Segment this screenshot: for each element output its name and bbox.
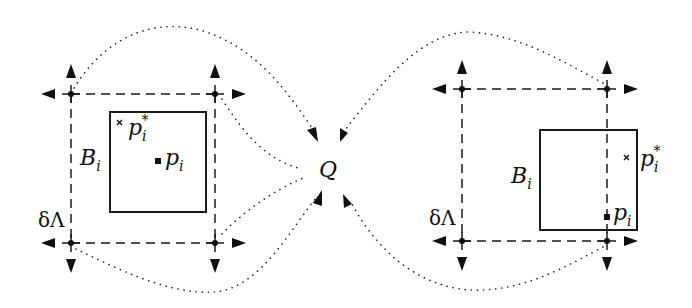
left-group: pi* pi Bi δΛ [38,64,246,273]
arrow-down-icon [210,259,220,273]
left-node-bottom-right [206,234,246,273]
right-node-bottom-right [598,232,638,271]
arrow-right-icon [232,238,246,248]
left-node-top-right [206,64,246,103]
arrow-up-icon [457,60,467,74]
left-point-label: pi [165,145,184,174]
arrow-up-icon [210,64,220,78]
arrow-down-icon [602,257,612,271]
arrow-right-icon [624,236,638,246]
right-box-label: Bi [510,163,532,192]
arrow-into-q-icon [313,190,322,206]
arrow-right-icon [624,84,638,94]
center-label-q: Q [319,157,337,182]
right-dashed-boundary [462,89,607,241]
right-star-point-label: pi* [640,143,661,175]
left-star-point [117,120,122,125]
arrow-into-q-icon [343,194,352,208]
arrow-into-q-icon [307,127,318,142]
arrow-down-icon [457,257,467,271]
left-node-top-left [41,64,80,103]
right-node-top-left [432,60,471,98]
right-point-marker [604,214,610,220]
arrow-down-icon [66,259,76,273]
right-star-point [624,155,629,160]
left-point-marker [155,158,161,164]
left-box-label: Bi [79,145,101,174]
right-group: pi* pi Bi δΛ [429,60,661,271]
dotted-connectors [74,27,603,293]
arrow-left-icon [41,238,55,248]
arrow-up-icon [602,60,612,74]
right-boundary-label: δΛ [429,206,456,230]
left-boundary-label: δΛ [38,208,65,232]
right-point-label: pi [613,200,632,229]
arrow-up-icon [66,64,76,78]
arrow-into-q-icon [340,128,348,142]
arrow-left-icon [432,84,446,94]
right-node-top-right [598,60,638,98]
left-star-point-label: pi* [128,112,149,144]
arrow-left-icon [41,89,55,99]
left-node-bottom-left [41,234,80,273]
diagram-canvas: pi* pi Bi δΛ [0,0,692,308]
right-node-bottom-left [432,232,471,271]
arrow-right-icon [232,89,246,99]
arrow-left-icon [432,236,446,246]
